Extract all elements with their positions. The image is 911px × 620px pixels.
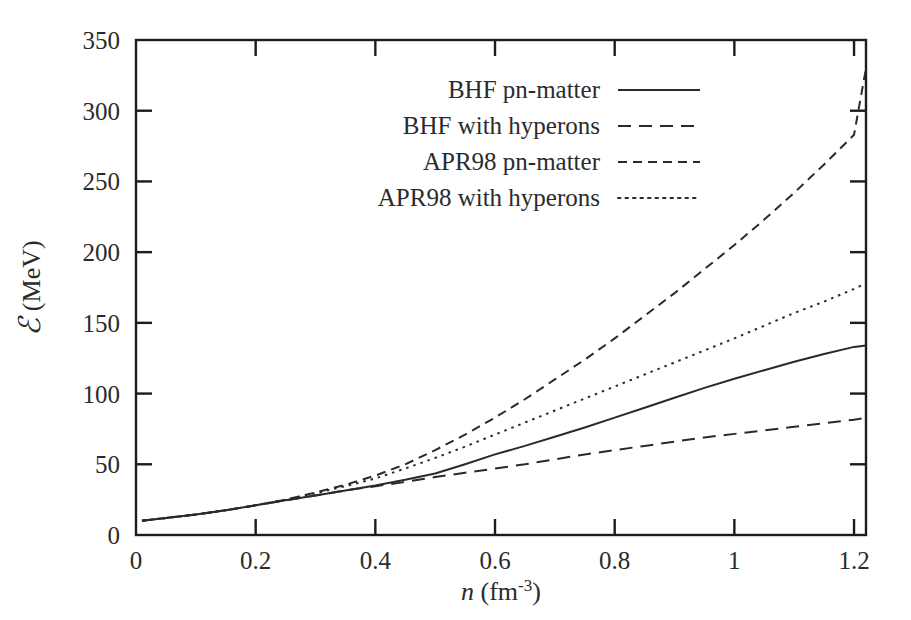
x-tick-label: 0.8	[599, 547, 630, 574]
legend-label-1: BHF with hyperons	[403, 112, 600, 139]
y-tick-label: 350	[83, 27, 121, 54]
y-tick-labels: 050100150200250300350	[83, 27, 121, 549]
legend-label-3: APR98 with hyperons	[378, 184, 600, 211]
legend: BHF pn-matterBHF with hyperonsAPR98 pn-m…	[378, 76, 700, 211]
y-tick-label: 200	[83, 239, 121, 266]
legend-label-2: APR98 pn-matter	[423, 148, 601, 175]
y-tick-label: 250	[83, 168, 121, 195]
x-tick-labels: 00.20.40.60.811.2	[130, 547, 870, 574]
x-tick-label: 0.6	[479, 547, 510, 574]
y-axis-title: ℰ (MeV)	[13, 240, 46, 335]
x-tick-label: 0	[130, 547, 143, 574]
x-tick-label: 1	[728, 547, 741, 574]
x-tick-label: 0.4	[360, 547, 392, 574]
energy-density-line-chart: 050100150200250300350 00.20.40.60.811.2 …	[0, 0, 911, 620]
curve-dotted	[142, 283, 866, 521]
y-tick-label: 100	[83, 381, 121, 408]
x-tick-label: 0.2	[240, 547, 271, 574]
curve-solid	[142, 345, 866, 520]
x-tick-label: 1.2	[838, 547, 869, 574]
y-tick-label: 50	[95, 451, 120, 478]
legend-label-0: BHF pn-matter	[448, 76, 601, 103]
x-axis-title: n (fm-3)	[461, 576, 541, 607]
y-tick-label: 150	[83, 310, 121, 337]
y-tick-label: 300	[83, 98, 121, 125]
y-tick-label: 0	[108, 522, 121, 549]
figure-container: 050100150200250300350 00.20.40.60.811.2 …	[0, 0, 911, 620]
